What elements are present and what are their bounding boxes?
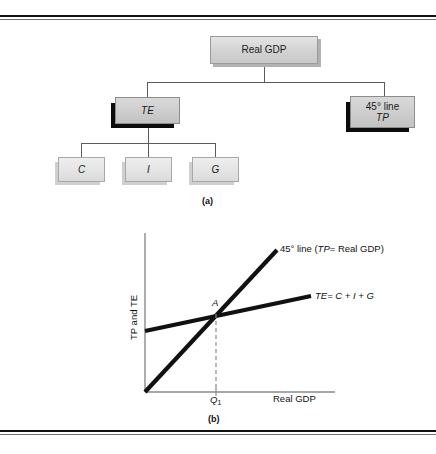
bottom-rule-thick <box>0 430 436 432</box>
annotation-45-line-prefix: 45° line ( <box>280 243 318 254</box>
line-45-degree <box>145 250 277 392</box>
y-axis-label-tp: TP <box>128 328 139 340</box>
x-axis-label: Real GDP <box>273 393 316 404</box>
annotation-point-a: A <box>212 297 218 308</box>
panel-b-caption: (b) <box>208 414 220 424</box>
annotation-45-line-suffix: = Real GDP) <box>330 243 384 254</box>
annotation-45-line: 45° line (TP= Real GDP) <box>280 243 384 254</box>
annotation-45-line-tp: TP <box>318 243 330 254</box>
annotation-te-line: TE= C + I + G <box>315 290 374 301</box>
y-axis-label: TP and TE <box>128 295 139 340</box>
annotation-te-line-equation: = C + I + G <box>327 290 374 301</box>
bottom-rule-thin <box>0 434 436 435</box>
x-tick-label-sub: 1 <box>217 399 221 406</box>
graph-svg <box>0 0 436 454</box>
annotation-te-line-te: TE <box>315 290 327 301</box>
y-axis-label-te: TE <box>128 295 139 307</box>
y-axis-label-and: and <box>128 307 139 328</box>
figure-container: Real GDP TE 45° line TP C I G (a) <box>0 0 436 454</box>
x-tick-label-q1: Q1 <box>210 394 221 406</box>
annotation-point-a-label: A <box>212 297 218 308</box>
